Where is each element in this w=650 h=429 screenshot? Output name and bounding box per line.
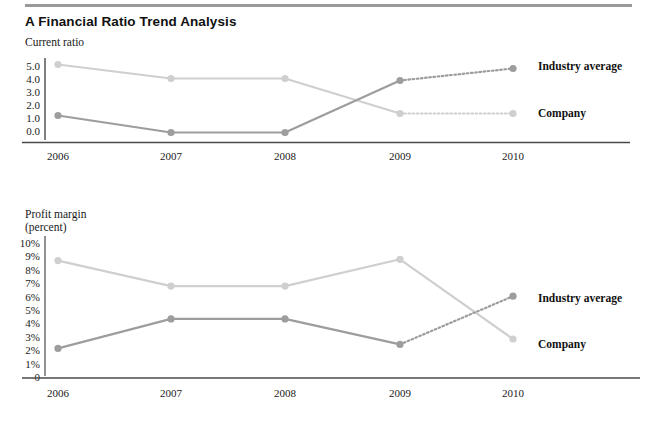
xtick-label: 2009	[370, 151, 430, 162]
series-line-industry-average	[58, 65, 400, 114]
xtick-label: 2006	[28, 388, 88, 399]
xtick-label: 2010	[483, 151, 543, 162]
data-point-company	[509, 65, 516, 72]
data-point-industry-average	[509, 110, 516, 117]
legend-item-company: Company	[538, 338, 586, 350]
data-point-company	[167, 129, 174, 136]
data-point-industry-average	[396, 110, 403, 117]
series-line-company-forecast	[400, 296, 513, 344]
data-point-industry-average	[281, 75, 288, 82]
series-line-company	[58, 319, 400, 349]
xtick-label: 2008	[255, 388, 315, 399]
header-rule	[25, 4, 632, 7]
xtick-label: 2007	[141, 388, 201, 399]
data-point-company	[281, 315, 288, 322]
series-line-company-forecast	[400, 69, 513, 81]
data-point-industry-average	[396, 256, 403, 263]
xtick-label: 2010	[483, 388, 543, 399]
xtick-label: 2007	[141, 151, 201, 162]
chart-current-ratio: Current ratio 5.0 4.0 3.0 2.0 1.0 0.0	[0, 36, 650, 176]
chart-profit-margin: Profit margin (percent) 10% 9% 8% 7% 6% …	[0, 200, 650, 420]
plot-area-current-ratio	[0, 36, 650, 176]
xtick-label: 2009	[370, 388, 430, 399]
data-point-company	[167, 315, 174, 322]
data-point-company	[509, 293, 516, 300]
series-line-industry-average	[58, 259, 513, 339]
legend-item-company: Company	[538, 107, 586, 119]
data-point-company	[396, 77, 403, 84]
legend-item-industry-average: Industry average	[538, 292, 622, 304]
data-point-company	[281, 129, 288, 136]
plot-area-profit-margin	[0, 200, 650, 420]
chart-page: A Financial Ratio Trend Analysis Current…	[0, 0, 650, 429]
data-point-company	[54, 112, 61, 119]
series-line-company	[58, 81, 400, 133]
data-point-industry-average	[167, 283, 174, 290]
data-point-industry-average	[509, 335, 516, 342]
xtick-label: 2008	[255, 151, 315, 162]
legend-item-industry-average: Industry average	[538, 60, 622, 72]
data-point-industry-average	[167, 75, 174, 82]
data-point-industry-average	[54, 61, 61, 68]
xtick-label: 2006	[28, 151, 88, 162]
data-point-company	[54, 345, 61, 352]
data-point-industry-average	[281, 283, 288, 290]
data-point-company	[396, 341, 403, 348]
data-point-industry-average	[54, 257, 61, 264]
page-title: A Financial Ratio Trend Analysis	[25, 14, 237, 29]
